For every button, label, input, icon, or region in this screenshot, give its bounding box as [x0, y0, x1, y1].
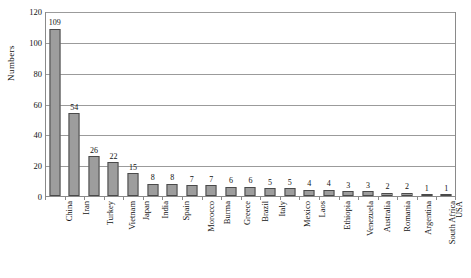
x-axis-tick	[417, 196, 418, 200]
bar-slot: 109	[45, 12, 65, 196]
bar-value-label: 1	[425, 185, 429, 193]
bar-value-label: 3	[346, 182, 350, 190]
x-axis-tick	[221, 196, 222, 200]
bar-value-label: 2	[385, 183, 389, 191]
bar[interactable]	[69, 113, 80, 196]
y-axis-title-text: Numbers	[6, 45, 16, 81]
bar-value-label: 8	[151, 174, 155, 182]
bar-value-label: 4	[327, 180, 331, 188]
x-axis-tick	[378, 196, 379, 200]
x-axis-category-label: Spain	[162, 201, 182, 275]
bar-slot: 8	[143, 12, 163, 196]
x-axis-category-label: Burma	[202, 201, 222, 275]
x-axis-tick	[339, 196, 340, 200]
x-axis-tick	[241, 196, 242, 200]
x-axis-tick	[202, 196, 203, 200]
x-axis-tick	[104, 196, 105, 200]
y-axis-title: Numbers	[4, 18, 18, 108]
bar[interactable]	[186, 185, 197, 196]
bar[interactable]	[167, 184, 178, 196]
x-axis-tick	[123, 196, 124, 200]
bar-value-label: 8	[170, 174, 174, 182]
bar[interactable]	[265, 188, 276, 196]
x-axis-category-label: China	[45, 201, 65, 275]
bar-slot: 3	[339, 12, 359, 196]
x-axis-tick	[260, 196, 261, 200]
bar-slot: 6	[241, 12, 261, 196]
x-axis-category-label: Venezuela	[339, 201, 359, 275]
bar[interactable]	[49, 29, 60, 196]
bar-value-label: 6	[248, 177, 252, 185]
bar[interactable]	[225, 187, 236, 196]
bar-slot: 26	[84, 12, 104, 196]
x-axis-tick	[436, 196, 437, 200]
x-axis-category-label: Laos	[299, 201, 319, 275]
bar-value-label: 54	[70, 104, 78, 112]
bar-value-label: 26	[90, 147, 98, 155]
bar-value-label: 5	[268, 179, 272, 187]
bar[interactable]	[88, 156, 99, 196]
bar-slot: 7	[182, 12, 202, 196]
x-axis-category-label: Ethiopia	[319, 201, 339, 275]
bar-slot: 6	[221, 12, 241, 196]
bar[interactable]	[206, 185, 217, 196]
x-axis-category-label: South Africa	[417, 201, 437, 275]
bar-slot: 7	[202, 12, 222, 196]
bar[interactable]	[284, 188, 295, 196]
bar-slot: 4	[319, 12, 339, 196]
bar-value-label: 7	[190, 176, 194, 184]
y-axis-tick-label: 0	[18, 193, 42, 202]
x-axis-category-label: Greece	[221, 201, 241, 275]
bar[interactable]	[128, 173, 139, 196]
x-axis-tick	[455, 196, 456, 200]
y-axis-tick-label: 40	[18, 131, 42, 140]
x-axis-category-label: Vietnam	[104, 201, 124, 275]
bar-chart: Numbers 020406080100120 1095426221588776…	[0, 0, 471, 278]
bar[interactable]	[108, 162, 119, 196]
bar-slot: 1	[436, 12, 456, 196]
x-axis-category-label: Brazil	[241, 201, 261, 275]
x-axis-tick	[84, 196, 85, 200]
x-axis-category-label: Italy	[260, 201, 280, 275]
x-axis-category-label: Turkey	[84, 201, 104, 275]
bar-slot: 3	[358, 12, 378, 196]
bar-value-label: 22	[109, 153, 117, 161]
bars-layer: 109542622158877665544332211	[45, 12, 456, 196]
x-axis-tick	[397, 196, 398, 200]
x-axis-tick	[143, 196, 144, 200]
y-axis-tick-label: 60	[18, 100, 42, 109]
x-axis-category-label: India	[143, 201, 163, 275]
x-axis-category-label-text: USA	[455, 201, 464, 218]
x-axis-category-label: Australia	[358, 201, 378, 275]
bar-slot: 2	[378, 12, 398, 196]
bar-value-label: 5	[288, 179, 292, 187]
x-axis-tick	[280, 196, 281, 200]
x-axis-tick	[162, 196, 163, 200]
x-axis-category-label: USA	[436, 201, 456, 275]
bar[interactable]	[245, 187, 256, 196]
x-axis-category-label: Mexico	[280, 201, 300, 275]
y-axis-tick-labels: 020406080100120	[18, 12, 42, 197]
x-axis-category-label: Romania	[378, 201, 398, 275]
y-axis-tick-label: 20	[18, 162, 42, 171]
bar[interactable]	[147, 184, 158, 196]
bar-slot: 54	[65, 12, 85, 196]
bar-value-label: 7	[209, 176, 213, 184]
x-axis-category-label: Morocco	[182, 201, 202, 275]
x-axis-tick	[299, 196, 300, 200]
bar-slot: 15	[123, 12, 143, 196]
bar-value-label: 3	[366, 182, 370, 190]
x-axis-category-label: Japan	[123, 201, 143, 275]
bar-value-label: 6	[229, 177, 233, 185]
bar-value-label: 15	[129, 164, 137, 172]
y-axis-tick-label: 100	[18, 39, 42, 48]
bar-value-label: 4	[307, 180, 311, 188]
x-axis-category-labels: ChinaIranTurkeyVietnamJapanIndiaSpainMor…	[45, 201, 456, 275]
bar-slot: 4	[299, 12, 319, 196]
x-axis-tick	[358, 196, 359, 200]
bar-value-label: 1	[444, 185, 448, 193]
x-axis-tick	[182, 196, 183, 200]
x-axis-tick	[319, 196, 320, 200]
x-axis-tick	[65, 196, 66, 200]
bar-slot: 5	[260, 12, 280, 196]
